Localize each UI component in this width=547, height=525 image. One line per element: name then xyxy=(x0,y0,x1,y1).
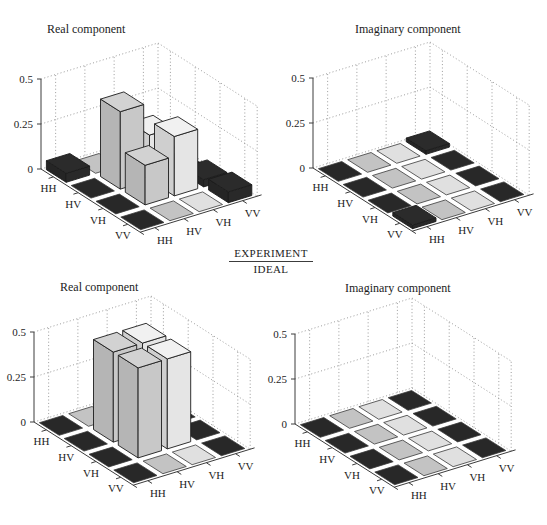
gridline xyxy=(295,343,412,379)
tick-mark xyxy=(485,209,489,212)
col-tick-label: HV xyxy=(458,224,474,236)
col-tick-label: HH xyxy=(411,489,427,501)
row-tick-label: VV xyxy=(387,228,403,240)
z-tick-label: 0.25 xyxy=(268,373,288,385)
bar-right-face xyxy=(174,129,197,196)
tick-mark xyxy=(236,454,240,457)
tick-mark xyxy=(515,200,519,203)
row-tick-label: HH xyxy=(295,437,311,449)
tick-mark xyxy=(409,483,413,486)
gridline xyxy=(412,343,511,406)
row-tick-label: HV xyxy=(319,453,335,465)
z-tick-label: 0.5 xyxy=(19,73,33,85)
col-tick-label: VH xyxy=(215,216,231,228)
col-tick-label: HH xyxy=(150,487,166,499)
tick-mark xyxy=(427,227,431,230)
tick-mark xyxy=(438,474,442,477)
col-tick-label: HH xyxy=(429,233,445,245)
col-tick-label: HV xyxy=(186,225,202,237)
z-tick-label: 0 xyxy=(28,163,34,175)
row-tick-label: HH xyxy=(313,181,329,193)
tick-mark xyxy=(116,477,121,479)
tick-mark xyxy=(42,430,47,432)
col-tick-label: VV xyxy=(499,462,515,474)
gridline xyxy=(34,296,151,332)
col-tick-label: HV xyxy=(440,480,456,492)
tick-mark xyxy=(148,481,152,484)
tick-mark xyxy=(66,446,71,448)
gridline xyxy=(158,43,257,106)
divider-label: EXPERIMENT IDEAL xyxy=(221,247,321,276)
col-tick-label: VH xyxy=(469,471,485,483)
tick-mark xyxy=(177,472,181,475)
row-tick-label: VH xyxy=(90,214,106,226)
tick-mark xyxy=(456,218,460,221)
bar-left-face xyxy=(118,355,138,458)
tick-mark xyxy=(327,448,332,450)
col-tick-label: VV xyxy=(517,206,533,218)
bar-left-face xyxy=(94,340,114,443)
tick-mark xyxy=(370,208,375,210)
row-tick-label: VV xyxy=(369,484,385,496)
z-tick-label: 0.25 xyxy=(14,118,34,130)
chart-title: Imaginary component xyxy=(355,22,461,36)
tick-mark xyxy=(377,479,382,481)
gridline xyxy=(41,43,158,79)
chart-title: Real component xyxy=(60,280,139,294)
row-tick-label: HH xyxy=(41,182,57,194)
col-tick-label: VV xyxy=(238,460,254,472)
chart-experiment-imaginary: 00.250.5HHHVVHVVHHHVVHVVImaginary compon… xyxy=(286,22,534,245)
tick-mark xyxy=(184,219,188,222)
bar-right-face xyxy=(138,361,161,458)
tick-mark xyxy=(352,464,357,466)
z-tick-label: 0.25 xyxy=(286,117,306,129)
col-tick-label: VH xyxy=(208,469,224,481)
tick-mark xyxy=(91,462,96,464)
tick-mark xyxy=(123,224,128,226)
z-tick-label: 0.5 xyxy=(291,72,305,84)
tick-mark xyxy=(73,193,78,195)
bar-VH-HV xyxy=(118,348,161,458)
z-tick-label: 0 xyxy=(300,162,306,174)
bar-right-face xyxy=(167,352,190,449)
z-tick-label: 0.5 xyxy=(273,328,287,340)
col-tick-label: VH xyxy=(487,215,503,227)
chart-title: Imaginary component xyxy=(345,281,451,295)
row-tick-label: VV xyxy=(115,229,131,241)
row-tick-label: HV xyxy=(58,451,74,463)
col-tick-label: HH xyxy=(157,234,173,246)
gridline xyxy=(412,298,511,361)
chart-title: Real component xyxy=(47,22,126,36)
z-tick-label: 0 xyxy=(21,416,27,428)
bar-VH-HV xyxy=(125,146,168,205)
bar-HH-VV xyxy=(406,131,449,154)
z-tick-label: 0 xyxy=(282,418,288,430)
gridline xyxy=(313,87,430,123)
z-tick-label: 0.25 xyxy=(7,371,27,383)
tick-mark xyxy=(243,201,247,204)
tick-mark xyxy=(497,456,501,459)
row-tick-label: VH xyxy=(83,467,99,479)
tick-mark xyxy=(345,192,350,194)
row-tick-label: VV xyxy=(108,482,124,494)
tick-mark xyxy=(49,177,54,179)
tick-mark xyxy=(321,176,326,178)
row-tick-label: HH xyxy=(34,435,50,447)
figure-page: { "figure": { "divider": { "numerator": … xyxy=(0,0,547,525)
row-tick-label: VH xyxy=(362,213,378,225)
row-tick-label: HV xyxy=(65,198,81,210)
divider-denominator: IDEAL xyxy=(221,262,321,276)
bar-HH-HH xyxy=(46,154,89,183)
tick-mark xyxy=(98,209,103,211)
row-tick-label: HV xyxy=(337,197,353,209)
gridline xyxy=(313,42,430,78)
chart-ideal-imaginary: 00.250.5HHHVVHVVHHHVVHVVImaginary compon… xyxy=(268,281,516,501)
col-tick-label: HV xyxy=(179,478,195,490)
tick-mark xyxy=(155,228,159,231)
tick-mark xyxy=(395,223,400,225)
divider-numerator: EXPERIMENT xyxy=(229,247,313,262)
chart-ideal-real: 00.250.5HHHVVHVVHHHVVHVVReal component xyxy=(7,280,255,499)
row-tick-label: VH xyxy=(344,469,360,481)
bar-right-face xyxy=(145,158,168,205)
bar-left-face xyxy=(101,99,121,189)
